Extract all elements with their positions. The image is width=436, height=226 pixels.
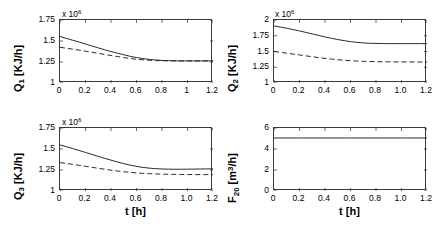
x-tick-label: 1.0	[395, 85, 407, 95]
exponent-power-q1: 6	[78, 8, 81, 15]
axes-frame-q2	[273, 19, 426, 82]
axes-frame-q1	[59, 19, 212, 82]
x-tick-label: 0.2	[79, 85, 91, 95]
y-tick-label: 1.5	[15, 143, 55, 153]
y-tick-label: 1.75	[229, 30, 269, 40]
x-tick-label: 0.6	[344, 85, 356, 95]
exponent-power-q2: 6	[291, 8, 294, 15]
x-tick-label: 0.4	[318, 193, 330, 203]
y-tick-label: 1.25	[229, 61, 269, 71]
panel-f20: F20 [m3/h] 0246 00.20.40.60.81.01.2 t [h…	[218, 108, 436, 226]
exponent-label-q1: x 106	[62, 8, 81, 19]
x-tick-label: 1	[184, 85, 189, 95]
x-tick-label: 1.2	[420, 193, 432, 203]
figure-canvas: x 106 Q1 [KJ/h] 11.251.51.75 00.20.40.60…	[0, 0, 436, 226]
x-tick-label: 0.2	[79, 193, 91, 203]
x-tick-label: 0.8	[155, 85, 167, 95]
y-tick-label: 0	[229, 185, 269, 195]
y-tick-label: 1.25	[15, 56, 55, 66]
axes-frame-f20	[273, 127, 426, 190]
x-tick-label: 1.2	[420, 85, 432, 95]
y-tick-label: 6	[229, 122, 269, 132]
plot-area-q1	[60, 20, 213, 83]
y-tick-label: 1.5	[229, 46, 269, 56]
y-tick-label: 4	[229, 143, 269, 153]
x-tick-label: 0	[57, 193, 62, 203]
exponent-power-q3: 6	[78, 116, 81, 123]
plot-area-q2	[274, 20, 427, 83]
x-tick-label: 0.6	[344, 193, 356, 203]
exponent-label-q3: x 106	[62, 116, 81, 127]
y-axis-label-f20: F20 [m3/h]	[226, 153, 241, 203]
x-tick-label: 1.0	[181, 193, 193, 203]
x-tick-label: 0.2	[293, 85, 305, 95]
exponent-label-q2: x 106	[275, 8, 294, 19]
x-tick-label: 0	[57, 85, 62, 95]
y-tick-label: 2	[229, 14, 269, 24]
x-tick-label: 0	[271, 85, 276, 95]
y-tick-label: 1	[15, 185, 55, 195]
x-tick-label: 0	[271, 193, 276, 203]
y-tick-label: 1.75	[15, 122, 55, 132]
panel-q1: x 106 Q1 [KJ/h] 11.251.51.75 00.20.40.60…	[0, 0, 218, 113]
exponent-mantissa-q1: x 10	[62, 9, 78, 19]
x-tick-label: 0.8	[369, 193, 381, 203]
y-tick-label: 1	[229, 77, 269, 87]
x-tick-label: 0.4	[318, 85, 330, 95]
x-tick-label: 0.4	[104, 85, 116, 95]
x-axis-label-q3: t [h]	[59, 205, 212, 217]
y-tick-label: 1.75	[15, 14, 55, 24]
x-tick-label: 0.6	[130, 193, 142, 203]
x-tick-label: 0.4	[104, 193, 116, 203]
y-tick-label: 1.5	[15, 35, 55, 45]
x-tick-label: 1.2	[206, 193, 218, 203]
panel-q2: x 106 Q2 [KJ/h] 11.251.51.752 00.20.40.6…	[218, 0, 436, 113]
x-tick-label: 0.6	[130, 85, 142, 95]
axes-frame-q3	[59, 127, 212, 190]
y-tick-label: 1	[15, 77, 55, 87]
y-axis-label-base-f20: F	[226, 196, 238, 203]
x-tick-label: 1.2	[206, 85, 218, 95]
x-tick-label: 0.8	[155, 193, 167, 203]
x-tick-label: 0.2	[293, 193, 305, 203]
x-axis-label-f20: t [h]	[273, 205, 426, 217]
exponent-mantissa-q2: x 10	[275, 9, 291, 19]
panel-q3: x 106 Q3 [KJ/h] 11.251.51.75 00.20.40.60…	[0, 108, 218, 226]
x-tick-label: 1.0	[395, 193, 407, 203]
plot-area-q3	[60, 128, 213, 191]
x-tick-label: 0.8	[369, 85, 381, 95]
plot-area-f20	[274, 128, 427, 191]
exponent-mantissa-q3: x 10	[62, 117, 78, 127]
y-tick-label: 2	[229, 164, 269, 174]
y-tick-label: 1.25	[15, 164, 55, 174]
